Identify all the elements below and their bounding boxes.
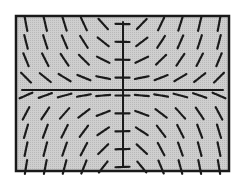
slope-field-chart <box>0 0 240 195</box>
slope-segment <box>96 95 110 96</box>
slope-segment <box>135 95 149 96</box>
